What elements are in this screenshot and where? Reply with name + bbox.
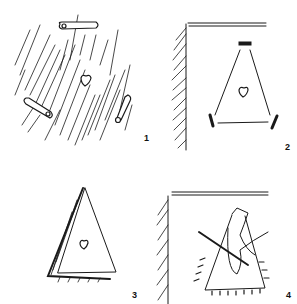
panel-4-folded-corner <box>157 192 268 304</box>
panel-label-3: 3 <box>132 290 137 300</box>
panel-2-triangle <box>210 42 277 128</box>
panel-3-triangle <box>48 188 116 282</box>
panel-label-4: 4 <box>286 290 291 300</box>
panel-label-2: 2 <box>285 142 290 152</box>
heart-icon-panel-2 <box>239 87 248 97</box>
illustration <box>0 0 297 304</box>
panel-label-1: 1 <box>144 133 149 143</box>
heart-icon-panel-1 <box>81 75 91 86</box>
safety-pin-icon-top <box>59 22 98 29</box>
panel-1-fabric-hatching <box>15 15 132 145</box>
panel-2-folded-corner <box>172 23 266 150</box>
